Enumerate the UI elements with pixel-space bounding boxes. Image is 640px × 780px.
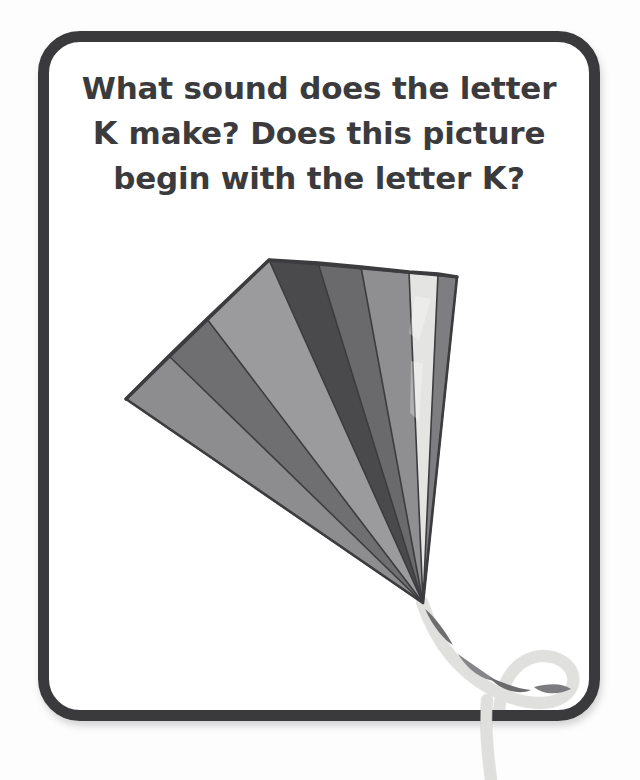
kite-tail [422, 602, 573, 721]
prompt-line-1: What sound does the letter [61, 66, 577, 111]
kite-panel-2 [169, 319, 423, 603]
target-letter-glyph-2: K [482, 159, 507, 197]
prompt-line-2-text: make? Does this picture [118, 115, 545, 151]
kite-sail [126, 260, 457, 603]
kite-leading-edge [126, 260, 457, 399]
kite-panel-4 [269, 260, 423, 603]
kite-panel-6 [361, 267, 423, 603]
kite-panel-3 [207, 260, 423, 603]
flashcard: What sound does the letter K make? Does … [38, 31, 600, 721]
kite-panel-1 [126, 356, 423, 603]
kite-panel-7 [409, 272, 438, 603]
kite-outline [126, 260, 457, 603]
kite-fabric-sheen [409, 296, 431, 421]
kite-panel-8 [423, 274, 457, 603]
prompt-line-3-text-after: ? [507, 160, 525, 196]
kite-tail-twist-4 [534, 684, 571, 693]
kite-tail-twist-2 [458, 654, 497, 681]
prompt-text-block: What sound does the letter K make? Does … [49, 66, 589, 201]
prompt-line-1-text: What sound does the letter [82, 70, 557, 106]
kite-tail-ribbon-edge [422, 602, 573, 721]
prompt-line-3: begin with the letter K? [61, 156, 577, 201]
prompt-line-3-text-before: begin with the letter [113, 160, 482, 196]
worksheet-page: What sound does the letter K make? Does … [0, 0, 640, 780]
kite-spars [126, 260, 457, 603]
target-letter-glyph-1: K [93, 114, 118, 152]
kite-panel-5 [318, 263, 423, 603]
kite-tail-twist-1 [425, 609, 453, 645]
kite-tail-ribbon [422, 602, 573, 721]
prompt-line-2: K make? Does this picture [61, 111, 577, 156]
kite-tail-twist-3 [489, 677, 531, 692]
